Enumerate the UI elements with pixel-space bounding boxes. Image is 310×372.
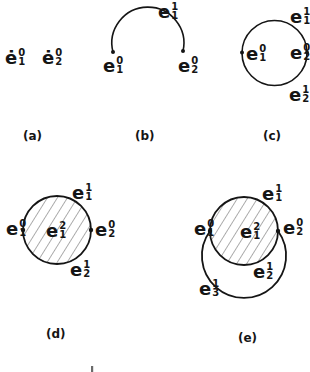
panel-caption-e: (e) [238,331,257,345]
cell-label-d-top-arc: e 11 [72,184,92,201]
cell-label-subscript: 1 [253,232,260,240]
cell-label-base: e [240,224,252,239]
cell-label-b-left: e 01 [103,57,123,74]
cell-label-subscript: 1 [207,229,214,237]
cell-label-e-top-arc: e 11 [262,185,282,202]
cell-label-e-right-vertex: e 02 [283,219,303,236]
cell-label-base: e [262,186,274,201]
figure-canvas: ė 01 ė 02 (a) e 11 e 01 e 02 (b) e 11 e … [0,0,310,372]
cell-label-subscript: 1 [85,193,92,201]
cell-label-e-extra-arc: e 13 [199,280,219,297]
cell-label-base: e [246,46,258,61]
cell-label-subscript: 2 [296,228,303,236]
endpoint-dot [111,50,115,54]
cell-label-base: e [72,185,84,200]
cell-label-c-top-arc: e 11 [290,8,310,25]
cell-label-b-right: e 02 [178,57,198,74]
cell-label-subscript: 2 [191,66,198,74]
cell-label-subscript: 1 [303,17,310,25]
cell-label-base: ė [5,50,17,65]
cell-label-base: e [283,220,295,235]
cell-label-base: e [46,223,58,238]
cell-label-a-point2: ė 02 [42,49,62,66]
cell-label-subscript: 1 [259,54,266,62]
cell-label-base: e [158,4,170,19]
cell-label-d-right-vertex: e 02 [95,221,115,238]
cell-label-subscript: 2 [108,230,115,238]
cell-label-base: e [253,264,265,279]
cell-label-base: e [103,58,115,73]
cell-label-subscript: 1 [171,12,178,20]
cell-label-base: e [290,9,302,24]
cell-label-base: e [95,222,107,237]
endpoint-dot [181,49,185,53]
cell-label-subscript: 2 [266,272,273,280]
panel-caption-d: (d) [46,327,66,341]
cell-label-c-left-vertex: e 01 [246,45,266,62]
cell-label-subscript: 1 [18,58,25,66]
cell-label-subscript: 2 [303,53,310,61]
cell-label-subscript: 1 [19,229,26,237]
cell-label-b-arc: e 11 [158,3,178,20]
vertex-dot [240,51,244,55]
stray-mark [91,366,93,372]
cell-label-base: e [199,281,211,296]
cell-label-c-bottom-arc: e 12 [289,86,309,103]
cell-label-c-right-vertex: e 02 [290,44,310,61]
cell-label-d-face: e 21 [46,222,66,239]
vertex-dot [89,228,93,232]
cell-label-subscript: 1 [116,66,123,74]
cell-label-base: e [290,45,302,60]
cell-label-base: e [178,58,190,73]
cell-label-d-left-vertex: e 01 [6,220,26,237]
cell-label-e-left-vertex: e 01 [194,220,214,237]
cell-label-base: e [70,262,82,277]
panel-caption-c: (c) [263,129,281,143]
cell-label-base: ė [42,50,54,65]
panel-caption-a: (a) [23,129,42,143]
cell-label-subscript: 2 [302,95,309,103]
cell-label-subscript: 1 [59,231,66,239]
cell-label-subscript: 2 [55,58,62,66]
cell-label-subscript: 1 [275,194,282,202]
cell-label-base: e [194,221,206,236]
cell-label-base: e [289,87,301,102]
cell-label-base: e [6,221,18,236]
cell-label-subscript: 2 [83,270,90,278]
cell-label-a-point1: ė 01 [5,49,25,66]
cell-label-d-bottom-arc: e 12 [70,261,90,278]
cell-label-e-face: e 21 [240,223,260,240]
cell-label-subscript: 3 [212,289,219,297]
vertex-dot [276,229,280,233]
cell-label-e-bottom-arc: e 12 [253,263,273,280]
panel-caption-b: (b) [135,129,155,143]
